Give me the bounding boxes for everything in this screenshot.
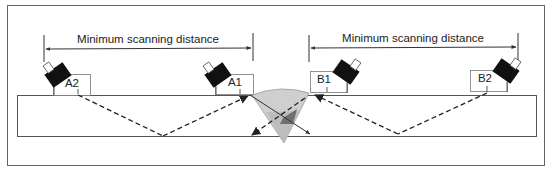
left-dimension: Minimum scanning distance — [44, 33, 253, 62]
probe-b2: B2 — [471, 52, 525, 92]
weld-zone — [252, 89, 309, 143]
probe-b2-label: B2 — [478, 72, 492, 84]
probe-a1: A1 — [200, 56, 254, 95]
probe-b1: B1 — [311, 53, 365, 93]
probe-b1-label: B1 — [317, 73, 331, 85]
probe-a1-label: A1 — [228, 76, 242, 88]
probe-a2: A2 — [40, 56, 91, 96]
probe-a2-label: A2 — [65, 77, 79, 89]
ultrasonic-scanning-diagram: Minimum scanning distance Minimum scanni… — [0, 0, 552, 171]
right-dimension: Minimum scanning distance — [309, 32, 518, 62]
right-dimension-label: Minimum scanning distance — [342, 32, 484, 44]
left-dimension-label: Minimum scanning distance — [77, 33, 219, 45]
